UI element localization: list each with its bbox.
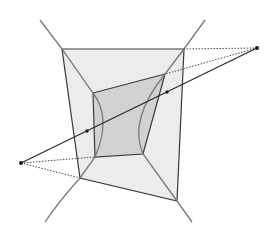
geometry-figure xyxy=(0,0,278,243)
dotted-line xyxy=(21,163,80,178)
upper-intersection-point xyxy=(165,90,168,93)
dotted-line xyxy=(184,48,257,49)
right-focus-point xyxy=(255,46,259,50)
left-focus-point xyxy=(19,161,23,165)
diagram-canvas xyxy=(0,0,278,243)
lower-intersection-point xyxy=(85,129,88,132)
